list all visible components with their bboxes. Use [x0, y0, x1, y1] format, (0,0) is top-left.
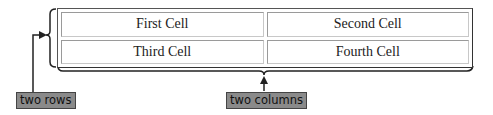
rows-arrow-head — [39, 31, 47, 39]
table-cell-fourth: Fourth Cell — [267, 40, 470, 65]
table-cell-third: Third Cell — [61, 40, 264, 65]
rows-arrow-line — [33, 35, 40, 92]
html-table: First Cell Second Cell Third Cell Fourth… — [57, 8, 473, 68]
columns-label: two columns — [226, 92, 307, 109]
rows-brace — [46, 9, 56, 67]
rows-label: two rows — [16, 92, 76, 109]
table-grid: First Cell Second Cell Third Cell Fourth… — [61, 12, 469, 64]
table-cell-first: First Cell — [61, 12, 264, 37]
columns-arrow-head — [260, 76, 268, 84]
table-cell-second: Second Cell — [267, 12, 470, 37]
